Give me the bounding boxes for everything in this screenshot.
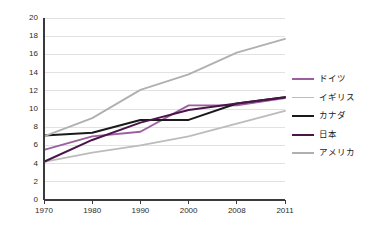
- x-tick-label: 1970: [29, 207, 59, 215]
- legend-swatch-2: [292, 115, 314, 117]
- x-tick-label: 1990: [125, 207, 155, 215]
- y-tick-label: 14: [18, 69, 38, 77]
- legend-label-0: ドイツ: [319, 74, 346, 83]
- y-tick-label: 10: [18, 105, 38, 113]
- x-tick-label: 2011: [270, 207, 300, 215]
- chart-canvas: [0, 0, 370, 235]
- axes: [44, 18, 285, 204]
- legend-swatch-1: [292, 97, 314, 99]
- y-tick-label: 8: [18, 123, 38, 131]
- legend-swatch-4: [292, 152, 314, 154]
- legend-label-4: アメリカ: [319, 148, 355, 157]
- y-tick-label: 12: [18, 87, 38, 95]
- y-tick-label: 16: [18, 50, 38, 58]
- grid-lines: [44, 18, 285, 200]
- legend-swatch-0: [292, 78, 314, 80]
- legend-label-2: カナダ: [319, 111, 346, 120]
- y-tick-label: 0: [18, 196, 38, 204]
- series-group: [44, 39, 285, 162]
- y-tick-label: 6: [18, 141, 38, 149]
- series-line-4: [44, 39, 285, 136]
- y-tick-label: 18: [18, 32, 38, 40]
- y-tick-label: 2: [18, 178, 38, 186]
- legend-label-3: 日本: [319, 130, 337, 139]
- y-tick-label: 4: [18, 160, 38, 168]
- legend-swatch-3: [292, 134, 314, 136]
- y-tick-label: 20: [18, 14, 38, 22]
- x-tick-label: 2008: [222, 207, 252, 215]
- series-line-3: [44, 97, 285, 162]
- legend-label-1: イギリス: [319, 93, 355, 102]
- series-line-0: [44, 98, 285, 150]
- x-tick-label: 1980: [77, 207, 107, 215]
- x-tick-label: 2000: [174, 207, 204, 215]
- line-chart: 02468101214161820 1970198019902000200820…: [0, 0, 370, 235]
